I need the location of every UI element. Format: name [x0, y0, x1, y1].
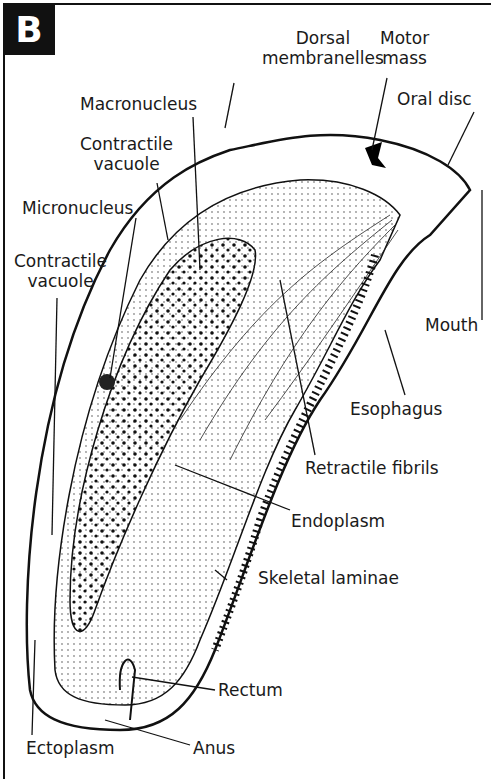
label-anus: Anus: [193, 738, 235, 758]
label-contractile-vacuole-upper: Contractile vacuole: [80, 134, 173, 174]
label-macronucleus: Macronucleus: [80, 94, 197, 114]
label-skeletal-laminae: Skeletal laminae: [258, 568, 399, 588]
micronucleus: [99, 374, 115, 390]
label-retractile-fibrils: Retractile fibrils: [305, 458, 439, 478]
label-rectum: Rectum: [218, 680, 283, 700]
label-line: Contractile: [14, 251, 107, 271]
label-dorsal-membranelles: Dorsal membranelles: [262, 28, 384, 68]
label-line: Motor: [380, 28, 429, 48]
label-micronucleus: Micronucleus: [22, 198, 133, 218]
organism-diagram: [0, 0, 494, 780]
label-line: vacuole: [80, 154, 173, 174]
label-line: Contractile: [80, 134, 173, 154]
label-line: vacuole: [14, 271, 107, 291]
label-oral-disc: Oral disc: [397, 89, 472, 109]
label-motor-mass: Motor mass: [380, 28, 429, 68]
label-line: Dorsal: [262, 28, 384, 48]
label-line: membranelles: [262, 48, 384, 68]
label-contractile-vacuole-lower: Contractile vacuole: [14, 251, 107, 291]
label-esophagus: Esophagus: [350, 399, 442, 419]
label-endoplasm: Endoplasm: [291, 511, 385, 531]
label-ectoplasm: Ectoplasm: [26, 738, 115, 758]
label-line: mass: [380, 48, 429, 68]
label-mouth: Mouth: [425, 315, 478, 335]
